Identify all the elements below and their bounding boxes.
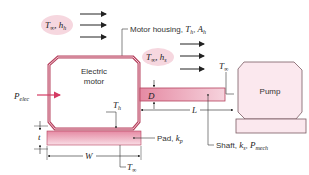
dim-l-label: L — [191, 105, 197, 115]
pad: Pad, kp — [47, 131, 183, 145]
pad-label: Pad, kp — [157, 133, 183, 144]
dim-t: t — [34, 121, 48, 154]
pump: Pump — [236, 62, 306, 133]
t-inf-bottom-callout: T∞ — [120, 145, 137, 173]
pump-base — [236, 119, 306, 133]
housing-label: Motor housing, Th, Ah — [130, 24, 206, 35]
ambient-air-top: T∞, hh — [41, 14, 106, 37]
p-elec-label: Pelec — [13, 91, 29, 102]
dim-w-label: W — [85, 151, 94, 161]
ambient-air-shaft: T∞, hs — [142, 44, 204, 69]
motor-label-line2: motor — [84, 77, 105, 86]
motor-pump-diagram: T∞, hh Motor housing, Th, Ah T∞, hs Elec… — [0, 0, 309, 175]
dim-t-label: t — [38, 132, 41, 142]
shaft: D — [140, 80, 225, 109]
electric-motor: Electric motor — [49, 57, 139, 129]
air-top-label: T∞, hh — [45, 20, 66, 31]
pad-body — [47, 131, 141, 145]
t-inf-bottom-label: T∞ — [127, 162, 137, 173]
dim-l: L — [141, 105, 233, 115]
t-inf-pump-label: T∞ — [219, 61, 229, 72]
dim-w: W — [47, 146, 141, 161]
pump-label: Pump — [260, 87, 281, 96]
dim-d-label: D — [147, 91, 155, 101]
air-shaft-label: T∞, hs — [146, 52, 167, 63]
motor-label-line1: Electric — [81, 67, 107, 76]
shaft-label: Shaft, ks, Pmech — [216, 140, 268, 151]
